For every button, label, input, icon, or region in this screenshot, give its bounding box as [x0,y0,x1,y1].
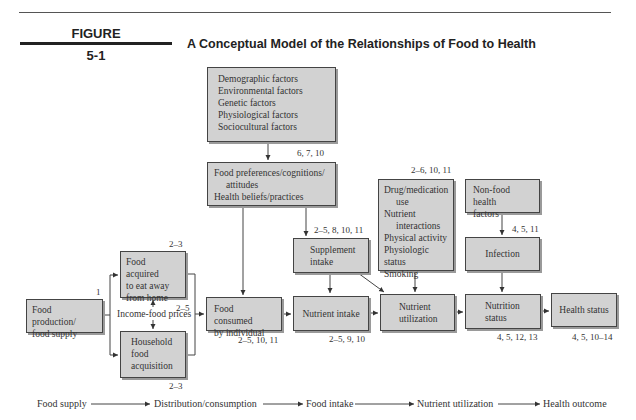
box-line: Nutrition [485,300,521,312]
box-line: to eat away [126,280,180,292]
box-line: food supply [32,328,97,340]
supplement-box: Supplement intake [293,238,369,273]
health-beliefs-line: Health beliefs/practices [214,191,329,203]
ref-nutrient-intake: 2–5, 9, 10 [329,334,365,344]
box-line: Physical activity [384,232,448,244]
food-consumed-box: Food consumed by individual [206,297,282,331]
box-line: Non-food health [473,184,532,208]
factor-physiological: Physiological factors [218,109,325,121]
ref-household: 2–3 [169,381,183,391]
factor-sociocultural: Sociocultural factors [218,121,325,133]
box-line: status [485,312,521,324]
box-line: utilization [399,313,436,325]
connector-lines [0,0,636,420]
box-line: Infection [485,248,519,260]
box-line: Food acquired [126,256,180,280]
factors-box: Demographic factors Environmental factor… [207,67,336,142]
food-production-box: Food production/ food supply [26,299,103,333]
box-line: Household [131,336,175,348]
ref-drug: 2–6, 10, 11 [411,165,451,175]
ref-food-production: 1 [96,287,101,297]
infection-box: Infection [465,237,540,271]
nutrient-utilization-box: Nutrient utilization [380,294,455,331]
box-line: Supplement [310,244,352,256]
ref-preferences: 6, 7, 10 [297,148,324,158]
preferences-line: attitudes [214,179,329,191]
factor-demographic: Demographic factors [218,73,325,85]
ref-nutrition-status: 4, 5, 12, 13 [497,332,538,342]
ref-food-away: 2–3 [169,239,183,249]
box-line: Drug/medication [384,184,448,196]
flow-nutrient-utilization: Nutrient utilization [417,398,493,409]
box-line: food [131,348,175,360]
health-status-box: Health status [551,293,617,327]
income-food-prices-label: Income-food prices [117,309,191,319]
factor-genetic: Genetic factors [218,97,325,109]
box-line: Nutrient intake [302,308,359,320]
box-line: Nutrient [399,301,436,313]
household-box: Household food acquisition [120,331,186,378]
box-line: Smoking [384,268,448,280]
ref-supplement: 2–5, 8, 10, 11 [314,225,363,235]
box-line: acquisition [131,360,175,372]
flow-distribution: Distribution/consumption [154,398,257,409]
flow-health-outcome: Health outcome [543,398,607,409]
ref-infection: 4, 5, 11 [512,224,539,234]
preferences-line: Food preferences/cognitions/ [214,167,329,179]
factor-environmental: Environmental factors [218,85,325,97]
flow-food-supply: Food supply [37,398,87,409]
preferences-box: Food preferences/cognitions/ attitudes H… [207,162,336,206]
box-line: factors [473,208,532,220]
ref-food-consumed: 2–5, 10, 11 [238,335,278,345]
box-line: use [384,196,448,208]
ref-health-status: 4, 5, 10–14 [572,332,613,342]
box-line: Food production/ [32,304,97,328]
box-line: Physiologic status [384,244,448,268]
box-line: Food consumed [214,303,274,327]
non-food-box: Non-food health factors [465,179,540,213]
drug-box: Drug/medication use Nutrient interaction… [378,179,454,271]
nutrient-intake-box: Nutrient intake [293,296,369,331]
food-away-box: Food acquired to eat away from home [120,251,186,298]
flow-food-intake: Food intake [306,398,354,409]
box-line: from home [126,292,180,304]
box-line: intake [310,256,352,268]
box-line: Nutrient [384,208,448,220]
box-line: interactions [384,220,448,232]
box-line: Health status [559,304,608,316]
nutrition-status-box: Nutrition status [465,294,541,329]
